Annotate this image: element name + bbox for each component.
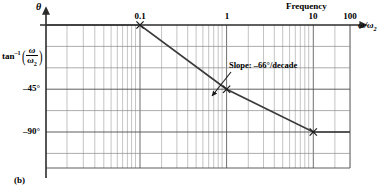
bode-phase-figure: Frequency θ 0.1 1 10 100 –45° –90° tan–1… <box>0 0 382 192</box>
y-axis-label-fraction: ωω2 <box>26 46 38 68</box>
theta-axis-label: θ <box>36 2 41 12</box>
frequency-title: Frequency <box>286 2 327 11</box>
panel-caption: (b) <box>14 176 25 185</box>
y-axis-label-denominator-group: ω2 <box>26 56 38 67</box>
y-tick-label-minus45: –45° <box>6 84 40 93</box>
x-tick-label-0p1: 0.1 <box>126 12 154 21</box>
y-axis-label-denominator-subscript: 2 <box>34 61 37 67</box>
x-tick-label-10: 10 <box>299 12 327 21</box>
y-axis-label-exponent: –1 <box>15 50 21 56</box>
phase-plot-canvas <box>0 0 382 192</box>
y-tick-label-minus90: –90° <box>6 127 40 136</box>
x-axis-label-denominator-subscript: 2 <box>374 26 377 32</box>
x-tick-label-1: 1 <box>213 12 241 21</box>
paren-close-icon: ) <box>39 48 43 65</box>
y-axis-label: tan–1(ωω2) <box>2 46 44 68</box>
paren-open-icon: ( <box>22 48 26 65</box>
x-axis-label: ω/ω2 <box>358 21 377 32</box>
y-axis-label-fn: tan <box>2 51 15 61</box>
slope-annotation-text: Slope: –66°/decade <box>229 61 297 70</box>
